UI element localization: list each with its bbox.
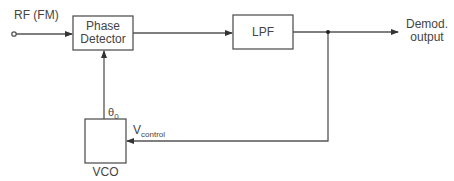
phase-detector-label: Phase Detector: [73, 20, 133, 46]
lpf-label: LPF: [233, 26, 293, 39]
input-label: RF (FM): [14, 9, 59, 22]
input-terminal: [12, 32, 16, 36]
theta-label: θ0: [108, 106, 119, 123]
diagram-canvas: [0, 0, 454, 181]
pd-line2: Detector: [73, 33, 133, 46]
vcontrol-base: V: [133, 123, 141, 137]
theta-sub: 0: [114, 112, 118, 121]
output-line2: output: [402, 31, 452, 44]
vcontrol-sub: control: [141, 130, 165, 139]
output-label: Demod. output: [402, 18, 452, 44]
vcontrol-label: Vcontrol: [133, 124, 165, 141]
junction-dot: [326, 30, 330, 34]
vco-label: VCO: [85, 166, 126, 179]
vco-block: [85, 119, 126, 163]
